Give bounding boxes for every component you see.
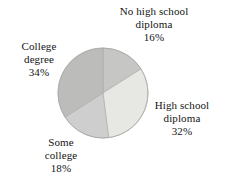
pie-label-line-2: degree [2, 53, 76, 66]
pie-label-line-1: High school [139, 99, 225, 112]
pie-label-value: 32% [139, 125, 225, 138]
pie-label-some-college: Some college 18% [22, 136, 100, 174]
pie-label-value: 18% [22, 162, 100, 175]
pie-label-line-1: No high school [95, 5, 213, 18]
pie-label-college-degree: College degree 34% [2, 40, 76, 78]
pie-label-no-high-school-diploma: No high school diploma 16% [95, 5, 213, 43]
pie-label-high-school-diploma: High school diploma 32% [139, 99, 225, 137]
pie-label-value: 34% [2, 66, 76, 79]
pie-label-value: 16% [95, 31, 213, 44]
pie-label-line-2: diploma [95, 18, 213, 31]
pie-label-line-1: College [2, 40, 76, 53]
pie-label-line-1: Some [22, 136, 100, 149]
pie-chart-figure: No high school diploma 16% High school d… [0, 0, 225, 187]
pie-label-line-2: college [22, 149, 100, 162]
pie-label-line-2: diploma [139, 112, 225, 125]
